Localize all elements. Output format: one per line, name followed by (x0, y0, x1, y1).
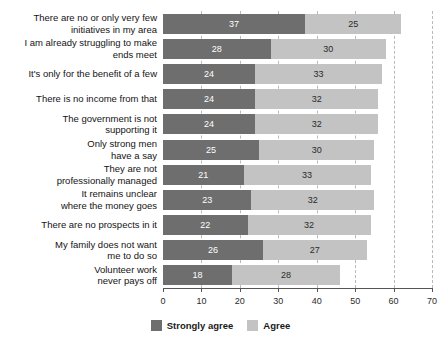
category-label: It's only for the benefit of a few (2, 68, 157, 80)
legend-item[interactable]: Agree (247, 320, 290, 331)
x-axis-tick-label: 50 (350, 296, 360, 306)
bar-value-label: 27 (263, 240, 367, 260)
category-label: The government is notsupporting it (2, 113, 157, 136)
bar-value-label: 25 (305, 14, 401, 34)
category-label: It remains unclearwhere the money goes (2, 188, 157, 211)
legend-label: Agree (263, 320, 290, 331)
category-label: There is no income from that (2, 93, 157, 105)
bar-value-label: 32 (255, 89, 378, 109)
bar-value-label: 37 (163, 14, 305, 34)
x-axis-tick (278, 288, 279, 292)
bar-value-label: 23 (163, 190, 251, 210)
legend-swatch-icon (151, 320, 162, 331)
x-axis-tick-label: 70 (427, 296, 437, 306)
bar-value-label: 28 (232, 265, 340, 285)
gridline (432, 11, 434, 288)
category-label-column: There are no or only very fewinitiatives… (2, 11, 157, 288)
bar-value-label: 25 (163, 140, 259, 160)
x-axis-tick-label: 0 (160, 296, 165, 306)
category-label: Volunteer worknever pays off (2, 264, 157, 287)
chart-legend: Strongly agreeAgree (0, 320, 441, 331)
bar-value-label: 30 (271, 39, 386, 59)
bar-value-label: 24 (163, 64, 255, 84)
x-axis-tick (432, 288, 433, 292)
bar-value-label: 30 (259, 140, 374, 160)
bar-value-label: 22 (163, 215, 248, 235)
bar-value-label: 32 (248, 215, 371, 235)
bar-value-label: 18 (163, 265, 232, 285)
legend-label: Strongly agree (167, 320, 234, 331)
x-axis-line (163, 288, 433, 289)
category-label: I am already struggling to makeends meet (2, 37, 157, 60)
x-axis-tick (317, 288, 318, 292)
bar-value-label: 33 (255, 64, 382, 84)
legend-item[interactable]: Strongly agree (151, 320, 234, 331)
x-axis-tick-label: 20 (235, 296, 245, 306)
x-axis-tick (394, 288, 395, 292)
x-axis-tick (163, 288, 164, 292)
bar-value-label: 33 (244, 165, 371, 185)
category-label: There are no or only very fewinitiatives… (2, 12, 157, 35)
stacked-bar-chart: There are no or only very fewinitiatives… (0, 0, 441, 342)
gridline (394, 11, 396, 288)
plot-area: 3725283024332432243225302133233222322627… (163, 11, 432, 288)
bar-value-label: 26 (163, 240, 263, 260)
bar-value-label: 32 (255, 114, 378, 134)
x-axis-tick-label: 30 (273, 296, 283, 306)
bar-value-label: 28 (163, 39, 271, 59)
x-axis-tick-label: 40 (312, 296, 322, 306)
x-axis-tick (355, 288, 356, 292)
category-label: They are notprofessionally managed (2, 163, 157, 186)
category-label: There are no prospects in it (2, 219, 157, 231)
legend-swatch-icon (247, 320, 258, 331)
bar-value-label: 32 (251, 190, 374, 210)
bar-value-label: 24 (163, 89, 255, 109)
bar-value-label: 24 (163, 114, 255, 134)
category-label: Only strong menhave a say (2, 138, 157, 161)
x-axis-tick (201, 288, 202, 292)
bar-value-label: 21 (163, 165, 244, 185)
category-label: My family does not wantme to do so (2, 239, 157, 262)
x-axis-tick-label: 60 (389, 296, 399, 306)
x-axis-tick-label: 10 (196, 296, 206, 306)
x-axis-tick (240, 288, 241, 292)
